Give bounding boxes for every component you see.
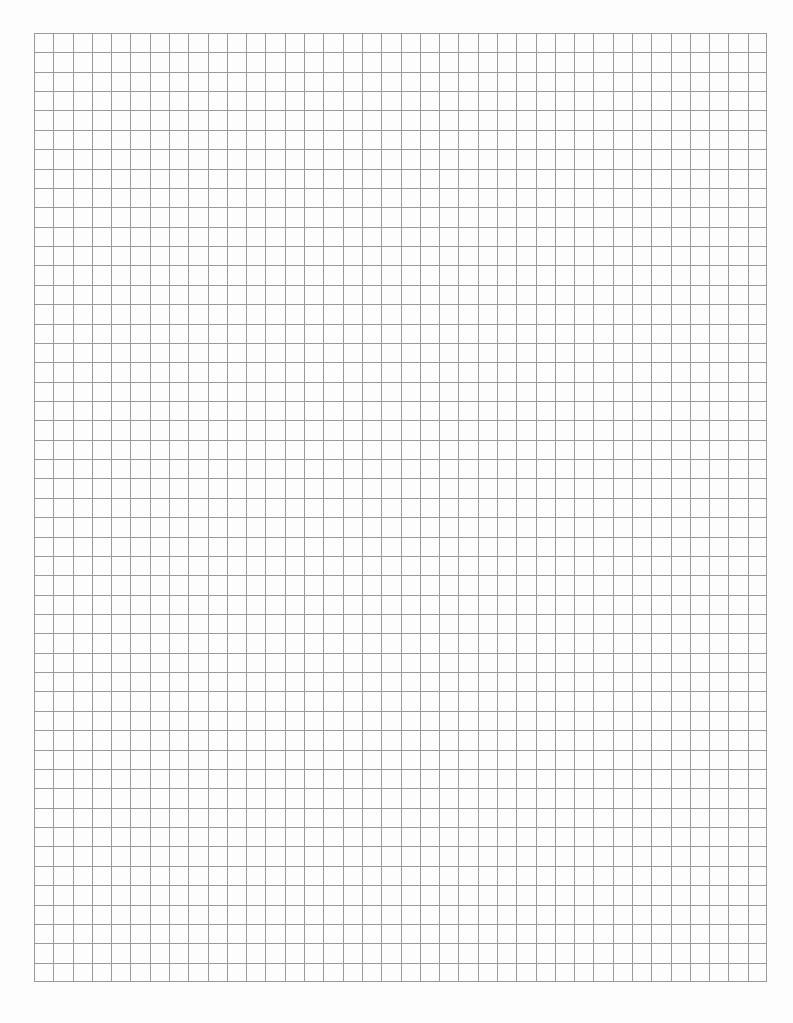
grid-lines bbox=[34, 33, 767, 982]
graph-paper-page bbox=[0, 0, 793, 1023]
square-grid bbox=[34, 33, 767, 982]
